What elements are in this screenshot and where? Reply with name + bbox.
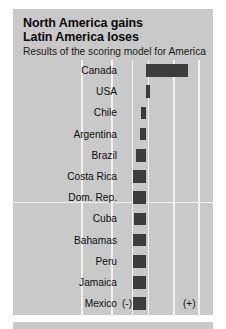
bar-bahamas (133, 234, 146, 247)
category-label-bahamas: Bahamas (13, 230, 117, 251)
bar-peru (133, 255, 146, 268)
axis-marker-positive: (+) (183, 293, 196, 314)
category-label-costa-rica: Costa Rica (13, 166, 117, 187)
bar-row: USA (13, 81, 213, 102)
category-label-usa: USA (13, 81, 117, 102)
bar-row: Dom. Rep. (13, 187, 213, 208)
bar-row: Peru (13, 251, 213, 272)
bar-row: Mexico(-)(+) (13, 293, 213, 314)
category-label-chile: Chile (13, 102, 117, 123)
bar-jamaica (133, 276, 146, 289)
category-label-brazil: Brazil (13, 145, 117, 166)
bar-usa (146, 85, 150, 98)
category-label-mexico: Mexico (13, 293, 117, 314)
chart-figure: North America gains Latin America loses … (13, 9, 213, 315)
axis-marker-negative: (-) (122, 293, 132, 314)
category-label-canada: Canada (13, 60, 117, 81)
bar-brazil (136, 149, 147, 162)
bar-costa-rica (133, 170, 146, 183)
bar-row: Argentina (13, 124, 213, 145)
bar-argentina (140, 128, 146, 141)
chart-title-line-2: Latin America loses (23, 31, 207, 45)
bar-row: Canada (13, 60, 213, 81)
bar-row: Jamaica (13, 272, 213, 293)
bar-row: Cuba (13, 208, 213, 229)
chart-subtitle: Results of the scoring model for America (23, 46, 207, 58)
category-label-argentina: Argentina (13, 124, 117, 145)
bar-row: Costa Rica (13, 166, 213, 187)
category-label-cuba: Cuba (13, 208, 117, 229)
title-block: North America gains Latin America loses … (23, 17, 207, 58)
bar-mexico (133, 297, 147, 310)
bar-chile (141, 107, 146, 120)
footer-strip (13, 322, 213, 329)
bar-canada (146, 64, 188, 77)
category-label-dom-rep: Dom. Rep. (13, 187, 117, 208)
bar-cuba (134, 213, 147, 226)
category-label-jamaica: Jamaica (13, 272, 117, 293)
bar-row: Bahamas (13, 230, 213, 251)
bar-row: Brazil (13, 145, 213, 166)
bar-row: Chile (13, 102, 213, 123)
chart-title-line-1: North America gains (23, 17, 207, 31)
bar-rows: CanadaUSAChileArgentinaBrazilCosta RicaD… (13, 60, 213, 315)
bar-dom-rep (133, 191, 146, 204)
category-label-peru: Peru (13, 251, 117, 272)
plot-area: CanadaUSAChileArgentinaBrazilCosta RicaD… (13, 60, 213, 315)
